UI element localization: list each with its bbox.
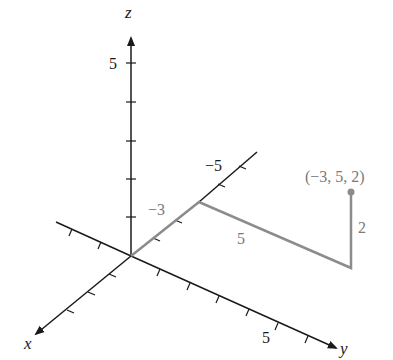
z-axis-label: z xyxy=(124,3,132,22)
x-axis-label: x xyxy=(23,334,32,353)
y-axis-label: y xyxy=(338,339,348,358)
z-segment-label: 2 xyxy=(358,219,366,236)
coordinate-diagram: z 5 x y 5 −5 −3 5 2 (−3, 5, 2) xyxy=(0,0,393,360)
y-segment-label: 5 xyxy=(237,230,245,247)
point-label: (−3, 5, 2) xyxy=(305,168,365,186)
z-tick-label: 5 xyxy=(109,55,117,72)
y-tick-label: 5 xyxy=(262,329,270,346)
z-axis xyxy=(126,38,136,256)
point-marker xyxy=(348,189,355,196)
x-segment-label: −3 xyxy=(148,201,165,218)
y-axis xyxy=(56,222,336,348)
neg-x-tick-label: −5 xyxy=(205,157,222,174)
